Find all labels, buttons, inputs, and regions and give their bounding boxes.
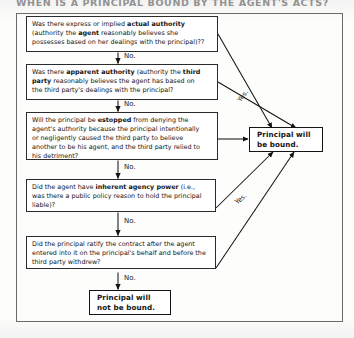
bound-line-1: Principal will	[257, 130, 311, 139]
q2-term-third: third	[183, 68, 201, 76]
q5-text-b: entered into it on the principal's behal…	[32, 249, 206, 257]
q4-term-inherent-agency-power: inherent agency power	[96, 183, 179, 191]
q1-text-c: reasonably believes she	[99, 29, 178, 37]
page-title: WHEN IS A PRINCIPAL BOUND BY THE AGENT'S…	[16, 0, 346, 9]
q3-text-d: or negligently caused the third party to…	[32, 134, 183, 142]
q3-text-a: Will the principal be	[32, 116, 98, 124]
bound-line-2: be bound.	[257, 140, 299, 149]
decision-box-actual-authority: Was there express or implied actual auth…	[26, 16, 218, 52]
q2-term-apparent-authority: apparent authority	[66, 68, 135, 76]
q1-term-agent: agent	[78, 29, 99, 37]
q4-text-b: (i.e.,	[179, 183, 195, 191]
q1-text-d: possesses based on her dealings with the…	[32, 38, 204, 46]
decision-box-estoppel: Will the principal be estopped from deny…	[26, 112, 218, 160]
q1-text-b: (authority the	[32, 29, 78, 37]
decision-box-inherent-agency-power: Did the agent have inherent agency power…	[26, 179, 216, 212]
q2-text-c: reasonably believes the agent has based …	[51, 77, 194, 85]
q5-text-c: third party withdrew?	[32, 258, 101, 266]
q3-term-estopped: estopped	[98, 116, 132, 124]
q3-text-b: from denying the	[131, 116, 188, 124]
q4-text-d: liable)?	[32, 201, 55, 209]
edge-label-no-1: No.	[124, 52, 136, 60]
q2-text-a: Was there	[32, 68, 66, 76]
q5-text-a: Did the principal ratify the contract af…	[32, 240, 195, 248]
decision-box-ratification: Did the principal ratify the contract af…	[26, 236, 216, 269]
terminal-box-principal-bound: Principal will be bound.	[249, 127, 323, 152]
q3-text-f: his detriment?	[32, 152, 78, 160]
q2-text-d: the third party's dealings with the prin…	[32, 86, 173, 94]
q1-text-a: Was there express or implied	[32, 20, 127, 28]
q2-term-party: party	[32, 77, 51, 85]
edge-label-no-3: No.	[124, 163, 136, 171]
q1-term-actual-authority: actual authority	[127, 20, 185, 28]
flowchart-frame	[16, 13, 343, 322]
q2-text-b: (authority the	[135, 68, 183, 76]
q4-text-a: Did the agent have	[32, 183, 96, 191]
decision-box-apparent-authority: Was there apparent authority (authority …	[26, 64, 218, 100]
terminal-box-principal-not-bound: Principal will not be bound.	[89, 290, 171, 315]
notbound-line-1: Principal will	[97, 293, 151, 302]
edge-label-no-4: No.	[124, 217, 136, 225]
notbound-line-2: not be bound.	[97, 303, 155, 312]
edge-label-no-5: No.	[124, 274, 136, 282]
edge-label-no-2: No.	[124, 100, 136, 108]
q4-text-c: was there a public policy reason to hold…	[32, 192, 202, 200]
flowchart-page: WHEN IS A PRINCIPAL BOUND BY THE AGENT'S…	[0, 0, 354, 338]
q3-text-e: another to be his agent, and the third p…	[32, 143, 200, 151]
q3-text-c: agent's authority because the principal …	[32, 125, 199, 133]
